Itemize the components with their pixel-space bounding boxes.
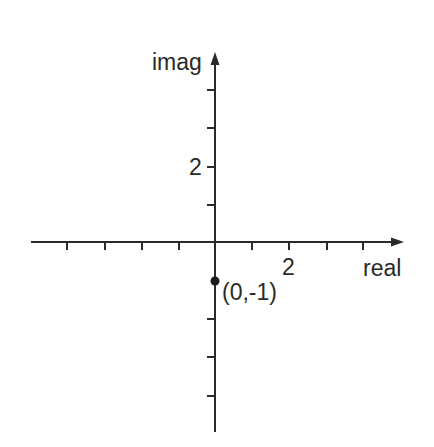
plot-canvas: imag real 2 2 (0,-1) bbox=[0, 0, 434, 447]
real-axis-label: real bbox=[363, 255, 401, 281]
complex-plane-diagram: imag real 2 2 (0,-1) bbox=[0, 0, 434, 447]
real-axis bbox=[31, 238, 404, 251]
real-tick-label-2: 2 bbox=[282, 254, 295, 280]
point-label: (0,-1) bbox=[222, 279, 277, 305]
imag-axis-arrow-icon bbox=[211, 52, 220, 65]
real-axis-arrow-icon bbox=[391, 238, 404, 247]
imag-tick-label-2: 2 bbox=[189, 154, 202, 180]
data-point-marker bbox=[211, 277, 220, 286]
imag-axis-label: imag bbox=[152, 49, 202, 75]
